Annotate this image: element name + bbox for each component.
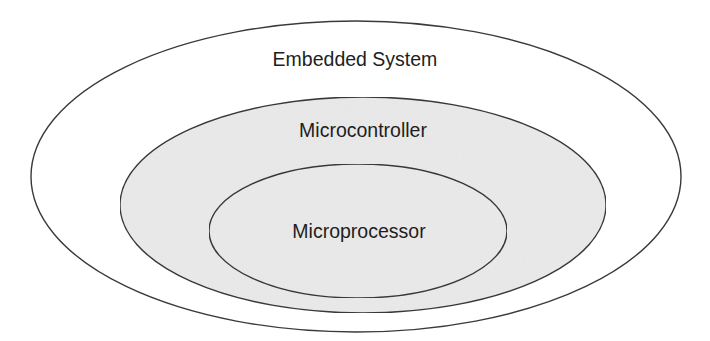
- microprocessor-label: Microprocessor: [292, 220, 426, 242]
- nested-ellipse-diagram: Embedded System Microcontroller Micropro…: [0, 0, 710, 341]
- microcontroller-label: Microcontroller: [299, 119, 427, 141]
- embedded-system-label: Embedded System: [273, 48, 438, 70]
